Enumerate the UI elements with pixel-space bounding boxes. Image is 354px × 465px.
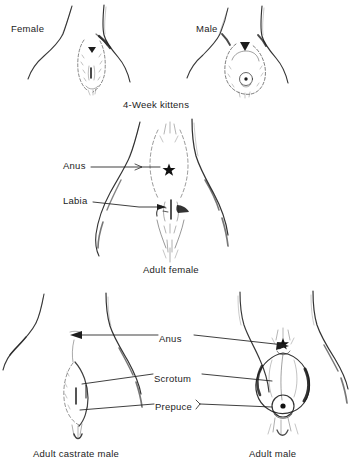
adult-female-leader-lines <box>91 164 166 210</box>
adult-female-anus-label: Anus <box>63 161 86 171</box>
anus-marker-female <box>163 164 176 176</box>
adult-male-anus-label: Anus <box>159 334 182 344</box>
adult-male-scrotum-label: Scrotum <box>154 374 191 384</box>
kitten-male-drawing <box>187 6 288 98</box>
adult-female-labia-label: Labia <box>63 196 88 206</box>
figure-line-art <box>0 0 354 465</box>
kittens-caption: 4-Week kittens <box>123 100 189 110</box>
adult-male-caption: Adult male <box>249 449 296 459</box>
adult-male-prepuce-label: Prepuce <box>155 402 192 412</box>
anatomy-figure: Female Male 4-Week kittens Anus Labia Ad… <box>0 0 354 465</box>
adult-female-drawing <box>96 119 228 262</box>
adult-castrate-male-drawing <box>3 293 142 439</box>
kitten-female-drawing <box>28 5 130 95</box>
kitten-male-label: Male <box>196 24 218 34</box>
adult-female-caption: Adult female <box>143 265 199 275</box>
adult-male-drawing <box>238 291 348 435</box>
adult-castrate-male-caption: Adult castrate male <box>33 449 119 459</box>
kitten-female-label: Female <box>11 24 44 34</box>
